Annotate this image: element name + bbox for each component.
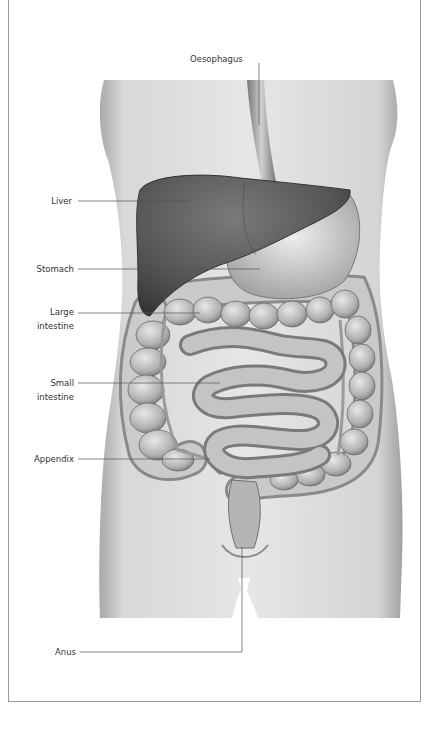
- label-anus: Anus: [55, 645, 76, 659]
- label-liver: Liver: [20, 194, 72, 208]
- label-small-intestine-line1: Small: [20, 376, 74, 390]
- label-small-intestine-line2: intestine: [20, 390, 74, 404]
- label-appendix: Appendix: [10, 452, 74, 466]
- digestive-system-illustration: [0, 0, 429, 729]
- label-large-intestine-line1: Large: [20, 305, 74, 319]
- label-oesophagus: Oesophagus: [190, 52, 243, 66]
- rectum: [229, 480, 261, 548]
- label-stomach: Stomach: [20, 262, 74, 276]
- label-large-intestine-line2: intestine: [20, 319, 74, 333]
